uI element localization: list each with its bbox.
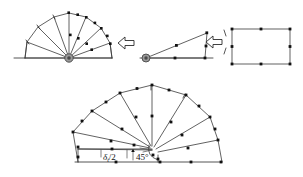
fan-large-node	[110, 140, 113, 143]
fan-small-spoke-2	[27, 42, 69, 58]
collapse-tick-top	[224, 30, 226, 36]
fan-small-node	[85, 42, 88, 45]
fan-large-node	[152, 154, 155, 157]
fan-large-node	[209, 116, 212, 119]
fan-small-leg-left	[25, 42, 27, 58]
figure-root: δt/2 45°	[0, 0, 303, 177]
wedge-apex-hub-core	[144, 56, 147, 59]
fan-large-node	[159, 161, 162, 164]
fan-small-spoke-4	[54, 17, 69, 58]
wedge-element	[140, 31, 213, 62]
rect-node-corner	[231, 63, 234, 66]
fan-large-spoke-7	[156, 117, 210, 149]
delta-t-label: δt/2	[103, 152, 116, 163]
fan-large-node	[119, 92, 122, 95]
rect-node-midside	[289, 45, 292, 48]
fan-large-leg-right	[218, 140, 222, 162]
fan-large-node	[133, 144, 136, 147]
fan-large-node	[187, 147, 190, 150]
fan-large-node	[77, 156, 80, 159]
fan-small-node	[69, 34, 72, 37]
fan-mesh-small	[14, 11, 112, 62]
fan-large-node	[220, 161, 223, 164]
fan-large-node	[151, 115, 154, 118]
rect-node-corner	[289, 63, 292, 66]
fan-large-node	[135, 116, 138, 119]
rect-node-corner	[289, 28, 292, 31]
wedge-node	[205, 45, 208, 48]
fan-small-node	[106, 35, 109, 38]
fan-large-node	[81, 120, 84, 123]
fan-large-node	[105, 101, 108, 104]
fan-small-node	[94, 22, 97, 25]
fan-small-leg-right	[110, 43, 112, 58]
annotation-labels: δt/2 45°	[103, 152, 149, 163]
fan-small-node	[109, 42, 112, 45]
fan-large-node	[91, 110, 94, 113]
fan-large-spoke-8	[158, 140, 218, 152]
wedge-node	[204, 57, 207, 60]
fan-large-node	[181, 134, 184, 137]
fan-large-node	[121, 128, 124, 131]
wedge-node	[205, 31, 208, 34]
left-arrow-icon	[118, 37, 134, 49]
rect-node-midside	[260, 28, 263, 31]
fan-small-spoke-8	[69, 43, 110, 58]
wedge-node	[174, 57, 177, 60]
rect-node-midside	[260, 63, 263, 66]
fan-large-node	[77, 146, 80, 149]
fan-large-node	[190, 161, 193, 164]
arrow-wedge-to-fan	[118, 37, 134, 49]
fan-large-node	[198, 105, 201, 108]
wedge-node	[175, 44, 178, 47]
fan-large-node	[111, 148, 114, 151]
arrow-rect-to-wedge	[206, 30, 226, 54]
fan-large-node	[136, 87, 139, 90]
rectangle-outline	[232, 29, 290, 64]
rectangle-element	[231, 28, 292, 66]
fan-small-spoke-3	[38, 27, 69, 58]
rect-node-midside	[231, 45, 234, 48]
fan-small-node	[90, 48, 93, 51]
fan-large-node	[217, 139, 220, 142]
angle-45-label: 45°	[136, 152, 149, 162]
crack-tip-diagram: δt/2 45°	[0, 0, 303, 177]
rect-node-corner	[231, 28, 234, 31]
fan-small-spoke-7	[69, 28, 101, 58]
fan-small-node	[67, 11, 70, 14]
delta-divisor: /2	[109, 152, 116, 162]
collapse-tick-bottom	[224, 48, 226, 54]
left-arrow-icon	[206, 36, 222, 48]
fan-large-node	[157, 158, 160, 161]
fan-small-node	[76, 13, 79, 16]
fan-small-node	[85, 16, 88, 19]
crack-tip-hub-core	[67, 56, 71, 60]
fan-large-node	[214, 128, 217, 131]
fan-small-node	[100, 27, 103, 30]
fan-small-node	[77, 37, 80, 40]
fan-large-node	[168, 89, 171, 92]
fan-large-node	[170, 121, 173, 124]
fan-large-node	[72, 131, 75, 134]
fan-small-rim	[25, 13, 112, 58]
